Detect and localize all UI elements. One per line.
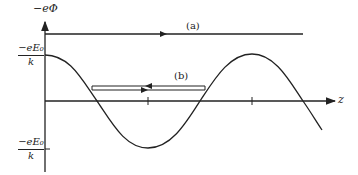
upper-level-denominator: k xyxy=(18,56,44,68)
trajectory-a-label: (a) xyxy=(186,20,200,31)
arrow-right-icon xyxy=(141,87,148,93)
lower-level-denominator: k xyxy=(18,150,44,162)
arrow-left-icon xyxy=(145,83,152,89)
upper-level-label: −eE₀ k xyxy=(18,42,44,68)
y-axis-label: −eΦ xyxy=(33,2,58,15)
potential-diagram xyxy=(0,0,358,175)
lower-level-numerator: −eE₀ xyxy=(18,136,44,150)
upper-level-numerator: −eE₀ xyxy=(18,42,44,56)
z-axis-label: z xyxy=(338,93,344,106)
arrow-right-icon xyxy=(160,31,167,37)
trajectory-b-label: (b) xyxy=(174,70,188,81)
lower-level-label: −eE₀ k xyxy=(18,136,44,162)
